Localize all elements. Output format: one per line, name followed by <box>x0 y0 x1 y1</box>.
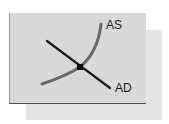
as-ad-plot <box>0 0 169 124</box>
as-label: AS <box>106 19 122 31</box>
ad-label: AD <box>115 82 132 94</box>
equilibrium-point <box>77 64 83 70</box>
